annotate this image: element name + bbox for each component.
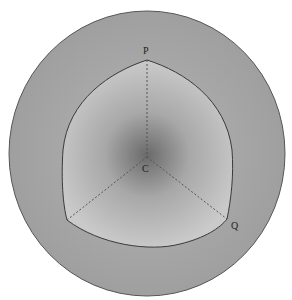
label-q: Q — [231, 220, 239, 231]
sphere-diagram: P C Q — [0, 0, 292, 300]
label-c: C — [142, 163, 149, 174]
label-p: P — [143, 45, 149, 56]
